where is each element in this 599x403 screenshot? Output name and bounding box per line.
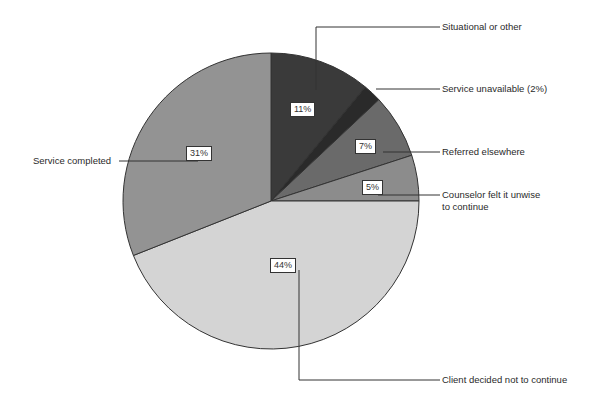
pie-slices (123, 53, 419, 349)
label-client: Client decided not to continue (442, 374, 567, 386)
label-service-unavailable: Service unavailable (2%) (442, 83, 547, 95)
label-situational: Situational or other (442, 21, 522, 33)
label-referred: Referred elsewhere (442, 146, 525, 158)
pct-completed: 31% (186, 146, 212, 161)
label-counselor-line1: Counselor felt it unwise (442, 189, 540, 201)
pct-situational: 11% (290, 102, 315, 117)
pct-counselor: 5% (362, 180, 383, 195)
pct-referred: 7% (355, 139, 376, 154)
label-service-completed: Service completed (33, 155, 111, 167)
pie-chart (0, 0, 599, 403)
pct-client: 44% (270, 258, 296, 273)
label-counselor-line2: to continue (442, 201, 488, 213)
